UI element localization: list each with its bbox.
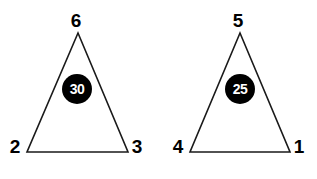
vertex-label-right-bottom-right: 1 (294, 137, 305, 156)
figure-triangle-right: 5 4 1 25 (0, 0, 317, 179)
vertex-label-right-bottom-left: 4 (173, 137, 184, 156)
badge-triangle-right: 25 (225, 74, 255, 104)
triangle-right-shape-layer (0, 0, 317, 179)
diagram-canvas: 6 2 3 30 5 4 1 25 (0, 0, 317, 179)
vertex-label-right-apex: 5 (233, 11, 244, 30)
